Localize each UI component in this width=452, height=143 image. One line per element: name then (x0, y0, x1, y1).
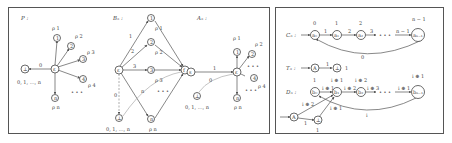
svg-text:ρ 1: ρ 1 (155, 25, 163, 32)
right-figure-panel: Cₙ : a₀ a₁ a₂ aₙ₋₁ 0 1 2 n − 1 1 2 3 n −… (275, 7, 444, 134)
svg-text:1: 1 (345, 65, 348, 71)
svg-text:3: 3 (133, 63, 136, 69)
svg-text:ρ n: ρ n (149, 126, 158, 133)
svg-text:• • •: • • • (157, 88, 169, 94)
svg-text:⊥: ⊥ (117, 115, 122, 121)
svg-text:• • •: • • • (247, 63, 259, 69)
svg-text:1: 1 (150, 15, 153, 21)
automaton-cn: Cₙ : a₀ a₁ a₂ aₙ₋₁ 0 1 2 n − 1 1 2 3 n −… (286, 16, 426, 60)
svg-text:1: 1 (236, 49, 239, 55)
svg-text:i ⊕ 1: i ⊕ 1 (412, 73, 424, 79)
svg-text:i: i (366, 112, 368, 118)
svg-text:ρ n: ρ n (234, 104, 243, 111)
automaton-dn: Dₙ : b₀ b₁ b₂ bₙ₋₁ A ⊥ 1 i ⊕ 1 i ⊕ 2 i ⊕… (280, 73, 425, 133)
svg-text:ρ 2: ρ 2 (155, 49, 163, 56)
svg-text:n − 1: n − 1 (396, 28, 410, 34)
svg-text:1: 1 (304, 120, 307, 126)
svg-text:2: 2 (150, 39, 153, 45)
svg-text:0: 0 (361, 54, 364, 60)
svg-text:ε: ε (117, 67, 120, 73)
svg-text:2: 2 (251, 51, 254, 57)
svg-text:Tₙ :: Tₙ : (286, 65, 296, 71)
svg-text:bₙ₋₁: bₙ₋₁ (413, 89, 423, 95)
svg-text:2: 2 (359, 20, 362, 26)
svg-text:4: 4 (253, 75, 256, 81)
automaton-an: Aₙ : s ε 1 2 4 n ⊥ ρ 1 ρ 2 ρ 4 ρ n 0, 1,… (185, 15, 266, 111)
svg-text:A: A (291, 114, 296, 120)
svg-text:b₂: b₂ (358, 89, 363, 95)
svg-text:Dₙ :: Dₙ : (285, 89, 296, 95)
svg-text:i ⊕ 2: i ⊕ 2 (344, 85, 356, 91)
svg-text:0, 1, ..., n: 0, 1, ..., n (106, 126, 131, 132)
svg-text:⊥: ⊥ (195, 93, 200, 99)
svg-text:i ⊕ 2: i ⊕ 2 (302, 101, 314, 107)
svg-text:0: 0 (313, 20, 316, 26)
svg-text:i ⊕ 3: i ⊕ 3 (367, 85, 379, 91)
svg-text:ρ 3: ρ 3 (155, 77, 163, 84)
svg-text:1: 1 (129, 33, 132, 39)
svg-text:ρ 2: ρ 2 (75, 33, 83, 40)
svg-text:4: 4 (82, 76, 85, 82)
svg-text:ρ n: ρ n (52, 104, 61, 111)
svg-text:Cₙ :: Cₙ : (286, 32, 296, 38)
svg-text:0: 0 (39, 62, 42, 68)
svg-text:a₂: a₂ (358, 32, 363, 38)
svg-text:3: 3 (150, 67, 153, 73)
automaton-p-title: P : (20, 15, 28, 21)
svg-text:i ⊕ 1: i ⊕ 1 (331, 77, 343, 83)
svg-text:• • •: • • • (245, 87, 257, 93)
svg-text:• • •: • • • (379, 32, 391, 38)
svg-text:s: s (189, 69, 192, 75)
svg-text:⊥: ⊥ (23, 66, 28, 72)
svg-text:3: 3 (370, 28, 373, 34)
svg-text:1: 1 (213, 65, 216, 71)
svg-text:0: 0 (114, 92, 117, 98)
svg-text:i ⊕ 2: i ⊕ 2 (355, 77, 367, 83)
svg-text:0: 0 (209, 77, 212, 83)
right-diagram: Cₙ : a₀ a₁ a₂ aₙ₋₁ 0 1 2 n − 1 1 2 3 n −… (276, 8, 445, 135)
svg-text:1: 1 (313, 77, 316, 83)
svg-text:ρ 4: ρ 4 (88, 82, 96, 89)
svg-text:• • •: • • • (379, 89, 391, 95)
svg-text:2: 2 (70, 43, 73, 49)
svg-text:0, 1, ..., n: 0, 1, ..., n (185, 104, 210, 110)
svg-text:0, 1, ..., n: 0, 1, ..., n (17, 79, 42, 85)
svg-text:2: 2 (348, 28, 351, 34)
svg-text:⊥: ⊥ (316, 117, 321, 123)
svg-text:1: 1 (316, 127, 319, 133)
svg-text:• • •: • • • (71, 89, 83, 95)
svg-text:⊥: ⊥ (335, 65, 340, 71)
left-figure-panel: P : ε ⊥ 1 2 3 4 n ρ 1 ρ 2 ρ 3 ρ 4 ρ n 0,… (8, 7, 270, 134)
svg-text:ρ 4: ρ 4 (258, 83, 266, 90)
svg-text:ρ 1: ρ 1 (233, 35, 241, 42)
automaton-bn-title: Bₙ : (112, 15, 123, 21)
automaton-bn: Bₙ : ε 1 2 3 n ⊥ f ρ 1 ρ 2 ρ 3 ρ n 0, 1,… (106, 15, 189, 134)
svg-text:i ⊕ 1: i ⊕ 1 (322, 85, 334, 91)
svg-text:b₀: b₀ (312, 89, 317, 95)
svg-text:ε: ε (235, 69, 238, 75)
svg-text:3: 3 (82, 56, 85, 62)
svg-text:a₀: a₀ (312, 32, 317, 38)
svg-text:2: 2 (131, 48, 134, 54)
svg-text:1: 1 (324, 28, 327, 34)
svg-text:n − 1: n − 1 (412, 16, 426, 22)
svg-text:1: 1 (56, 35, 59, 41)
svg-text:1: 1 (335, 20, 338, 26)
svg-text:ρ 1: ρ 1 (52, 25, 60, 32)
left-diagram: P : ε ⊥ 1 2 3 4 n ρ 1 ρ 2 ρ 3 ρ 4 ρ n 0,… (9, 8, 271, 135)
svg-text:a₁: a₁ (334, 32, 339, 38)
automaton-tn: Tₙ : A ⊥ 1 1 (286, 61, 348, 72)
svg-text:ε: ε (53, 66, 56, 72)
svg-text:ρ 3: ρ 3 (87, 49, 95, 56)
automaton-an-title: Aₙ : (196, 15, 207, 21)
svg-text:ρ 2: ρ 2 (255, 41, 263, 48)
automaton-p: P : ε ⊥ 1 2 3 4 n ρ 1 ρ 2 ρ 3 ρ 4 ρ n 0,… (17, 15, 96, 111)
svg-text:b₁: b₁ (334, 89, 339, 95)
svg-text:i ⊕ 1: i ⊕ 1 (398, 85, 410, 91)
svg-text:1: 1 (326, 61, 329, 67)
svg-text:i ⊕ 1: i ⊕ 1 (330, 105, 342, 111)
svg-text:A: A (312, 65, 317, 71)
svg-text:aₙ₋₁: aₙ₋₁ (413, 32, 423, 38)
